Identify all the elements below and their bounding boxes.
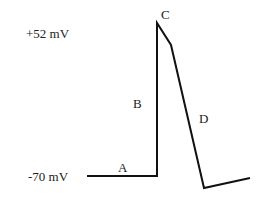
label-minus-70-mv: -70 mV [28, 169, 69, 184]
phase-label-d: D [199, 111, 208, 126]
action-potential-diagram: +52 mV -70 mV A B C D [0, 0, 270, 197]
label-plus-52-mv: +52 mV [26, 26, 70, 41]
phase-label-b: B [133, 96, 142, 111]
action-potential-trace [87, 23, 250, 188]
phase-label-c: C [161, 7, 170, 22]
phase-label-a: A [118, 160, 128, 175]
